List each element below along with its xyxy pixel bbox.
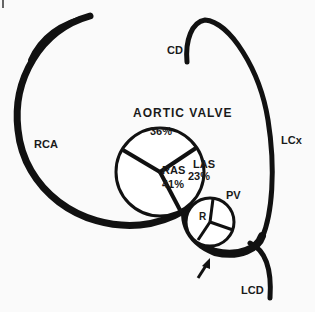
lcd-label: LCD (241, 284, 264, 296)
pv-cusp-label: R (199, 211, 207, 222)
rca-label: RCA (34, 138, 58, 150)
aortic-valve-title: AORTIC VALVE (133, 106, 233, 120)
coronary-anatomy-diagram: CD RCA LCx LCD AORTIC VALVE 36% RAS 41% … (0, 0, 315, 312)
ras-value: 41% (162, 178, 184, 190)
top-cusp-value: 36% (150, 125, 172, 137)
las-value: 23% (188, 170, 210, 182)
pv-label: PV (226, 189, 241, 201)
ras-label: RAS (162, 164, 185, 176)
lcx-label: LCx (281, 134, 303, 146)
cd-label: CD (167, 44, 183, 56)
las-label: LAS (193, 158, 215, 170)
pulmonary-valve (186, 198, 234, 246)
